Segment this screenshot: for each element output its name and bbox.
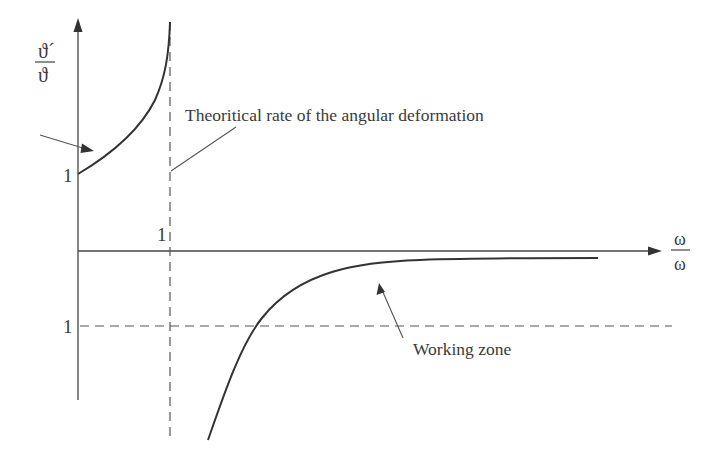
working-zone-label: Working zone	[413, 339, 511, 359]
x-label-numerator: ω	[674, 229, 686, 249]
pointer-arrowhead-icon	[81, 144, 95, 154]
y-axis-arrow-icon	[74, 18, 83, 32]
x-axis	[78, 247, 662, 256]
diagram-canvas: ϑ´ ϑ ω ω 1 1 1 Theoritical rate	[0, 0, 722, 467]
theoretical-rate-label: Theoritical rate of the angular deformat…	[185, 105, 484, 125]
y-tick-lower-one: 1	[63, 316, 73, 337]
curve-pointer-arrow	[40, 135, 94, 153]
y-label-numerator: ϑ´	[38, 40, 55, 62]
x-label-denominator: ω	[674, 254, 686, 274]
theoretical-rate-annotation: Theoritical rate of the angular deformat…	[171, 105, 484, 171]
diagram-svg: ϑ´ ϑ ω ω 1 1 1 Theoritical rate	[0, 0, 722, 467]
working-zone-annotation: Working zone	[377, 283, 512, 359]
y-tick-upper-one: 1	[63, 165, 73, 186]
x-axis-arrow-icon	[648, 247, 662, 256]
x-axis-label: ω ω	[671, 229, 690, 274]
working-zone-curve	[208, 258, 598, 440]
y-axis-label: ϑ´ ϑ	[35, 40, 55, 86]
y-axis	[74, 18, 83, 400]
x-tick-one: 1	[157, 224, 167, 245]
y-label-denominator: ϑ	[38, 64, 48, 86]
